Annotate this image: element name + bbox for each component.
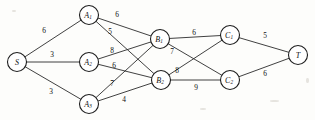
edge-weight-c2-t: 6 xyxy=(263,69,267,78)
node-a1[interactable]: A1 xyxy=(80,6,99,25)
edge-weight-a3-b2: 4 xyxy=(122,95,126,104)
edge-weight-s-a1: 6 xyxy=(42,26,46,35)
node-t[interactable]: T xyxy=(289,46,308,65)
edge-weight-a1-b2: 5 xyxy=(108,27,112,36)
scan-speck xyxy=(306,78,309,83)
flow-graph-canvas: SA1A2A3B1B2C1C2T 633658674678956 xyxy=(0,0,315,120)
edge-weight-s-a3: 3 xyxy=(49,87,53,96)
edge-weight-a2-b1: 8 xyxy=(110,46,114,55)
node-a2[interactable]: A2 xyxy=(80,53,99,72)
scan-speck xyxy=(200,108,206,110)
edge-weight-s-a2: 3 xyxy=(50,50,54,59)
edge-s-a3 xyxy=(25,67,81,99)
network-flow-diagram: SA1A2A3B1B2C1C2T 633658674678956 xyxy=(0,0,315,120)
node-s[interactable]: S xyxy=(8,53,27,72)
edge-weight-b1-c1: 6 xyxy=(192,28,196,37)
scan-speck xyxy=(12,10,16,12)
edge-a1-b1 xyxy=(98,18,151,36)
edge-a3-b1 xyxy=(96,45,153,97)
edge-weight-b2-c1: 8 xyxy=(175,66,179,75)
scan-speck xyxy=(270,100,279,102)
edge-weight-a1-b1: 6 xyxy=(115,10,119,19)
edge-c1-t xyxy=(239,38,289,53)
edge-weight-a3-b1: 7 xyxy=(110,79,114,88)
node-c2[interactable]: C2 xyxy=(221,71,240,90)
edge-a2-b1 xyxy=(98,42,151,59)
edge-weight-a2-b2: 6 xyxy=(112,61,116,70)
node-label-s: S xyxy=(15,58,19,67)
node-a3[interactable]: A3 xyxy=(80,95,99,114)
node-c1[interactable]: C1 xyxy=(221,26,240,45)
node-b2[interactable]: B2 xyxy=(152,71,171,90)
edge-weight-b2-c2: 9 xyxy=(194,83,198,92)
edge-weight-c1-t: 5 xyxy=(263,31,267,40)
node-b1[interactable]: B1 xyxy=(151,30,170,49)
edge-weight-b1-c2: 7 xyxy=(170,47,174,56)
nodes-layer: SA1A2A3B1B2C1C2T xyxy=(8,6,308,114)
node-label-t: T xyxy=(296,51,301,60)
